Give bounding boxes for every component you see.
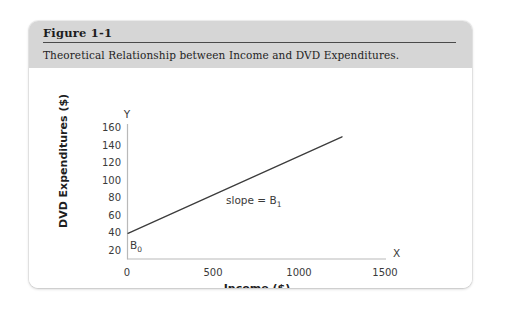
y-tick-label: 100 — [102, 175, 121, 186]
y-axis-name: Y — [123, 108, 131, 120]
regression-line — [128, 137, 342, 234]
header-divider — [43, 42, 456, 43]
y-tick-label: 140 — [102, 140, 121, 151]
intercept-label-subscript: 0 — [137, 245, 142, 254]
y-axis-title: DVD Expenditures ($) — [57, 94, 70, 228]
slope-annotation: slope = B1 — [226, 194, 282, 209]
y-tick-label: 80 — [108, 192, 121, 203]
figure-card: Figure 1-1 Theoretical Relationship betw… — [29, 21, 472, 288]
chart-svg: DVD Expenditures ($) Y X 160 140 120 100… — [29, 68, 472, 288]
y-tick-label: 20 — [108, 245, 121, 256]
figure-caption: Theoretical Relationship between Income … — [43, 47, 458, 63]
x-tick-label: 0 — [124, 267, 130, 278]
y-tick-label: 40 — [108, 227, 121, 238]
x-axis-title: Income ($) — [224, 282, 290, 288]
intercept-label-text: B — [130, 239, 137, 251]
figure-header: Figure 1-1 Theoretical Relationship betw… — [29, 21, 472, 68]
slope-annotation-text: slope = B — [226, 194, 277, 206]
figure-number: Figure 1-1 — [43, 26, 458, 40]
x-tick-label: 1500 — [372, 267, 397, 278]
y-tick-label: 120 — [102, 157, 121, 168]
slope-annotation-subscript: 1 — [277, 200, 282, 209]
x-tick-label: 1000 — [286, 267, 311, 278]
y-tick-label: 160 — [102, 122, 121, 133]
plot-area: DVD Expenditures ($) Y X 160 140 120 100… — [29, 68, 472, 288]
x-axis-name: X — [393, 247, 400, 259]
x-tick-label: 500 — [203, 267, 222, 278]
y-tick-label: 60 — [108, 210, 121, 221]
intercept-label: B0 — [130, 239, 142, 254]
